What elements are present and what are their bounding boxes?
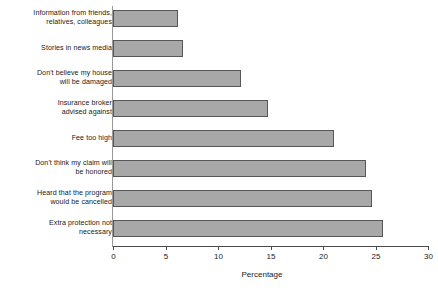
tick-mark-3 (271, 246, 272, 250)
bar-3 (113, 100, 268, 117)
bar-0 (113, 10, 178, 27)
bar-7 (113, 220, 383, 237)
tick-label-6: 30 (419, 252, 438, 262)
bar-chart: Information from friends, relatives, col… (0, 0, 438, 293)
category-label-7: Extra protection not necessary (0, 219, 112, 236)
tick-label-5: 25 (366, 252, 386, 262)
tick-label-3: 15 (261, 252, 281, 262)
tick-mark-2 (218, 246, 219, 250)
tick-label-0: 0 (104, 252, 124, 262)
category-label-6: Heard that the program would be cancelle… (0, 189, 112, 206)
tick-label-1: 5 (156, 252, 176, 262)
category-label-5: Don't think my claim will be honored (0, 159, 112, 176)
category-label-0: Information from friends, relatives, col… (0, 9, 112, 26)
bar-4 (113, 130, 334, 147)
bar-1 (113, 40, 183, 57)
tick-label-2: 10 (209, 252, 229, 262)
tick-mark-1 (166, 246, 167, 250)
category-label-4: Fee too high (0, 134, 112, 143)
tick-mark-0 (113, 246, 114, 250)
category-label-1: Stories in news media (0, 44, 112, 53)
x-axis-title-wrapper: Percentage (0, 270, 438, 279)
plot-area: Information from friends, relatives, col… (0, 0, 438, 293)
category-label-2: Don't believe my house will be damaged (0, 69, 112, 86)
bar-5 (113, 160, 366, 177)
bar-2 (113, 70, 241, 87)
category-label-3: Insurance broker advised against (0, 99, 112, 116)
category-axis-line (112, 6, 113, 247)
tick-mark-4 (323, 246, 324, 250)
x-axis-title: Percentage (242, 270, 283, 279)
tick-mark-5 (376, 246, 377, 250)
tick-mark-6 (428, 246, 429, 250)
bar-6 (113, 190, 372, 207)
tick-label-4: 20 (314, 252, 334, 262)
